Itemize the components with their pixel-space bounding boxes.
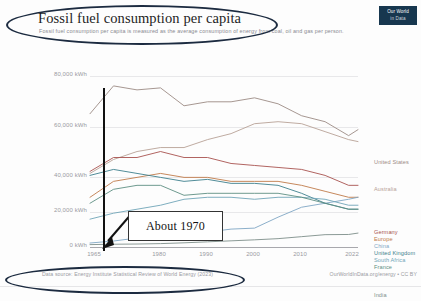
legend-label: China [374, 243, 389, 249]
ink-ellipse-title-highlight [6, 5, 278, 45]
legend-item-europe[interactable]: Europe [374, 236, 393, 242]
legend-item-india[interactable]: India [374, 292, 387, 298]
legend-label: Australia [374, 186, 397, 192]
annotation-callout-box: About 1970 [128, 211, 223, 241]
chart-plot-area: 80,000 kWh 60,000 kWh 40,000 kWh 20,000 … [0, 52, 421, 301]
attribution-note[interactable]: OurWorldInData.org/energy • CC BY [330, 271, 417, 277]
legend-label: India [374, 292, 387, 298]
ink-ellipse-source-highlight [5, 266, 245, 294]
legend-label: United Kingdom [374, 250, 415, 256]
legend-item-united-kingdom[interactable]: United Kingdom [374, 250, 415, 256]
legend-label: South Africa [374, 257, 405, 263]
chart-screenshot: Fossil fuel consumption per capita Fossi… [0, 0, 421, 301]
logo-line-2: in Data [379, 16, 417, 23]
series-line-australia[interactable] [90, 122, 358, 174]
legend-item-australia[interactable]: Australia [374, 186, 397, 192]
series-lines [0, 52, 421, 301]
series-line-united-states[interactable] [90, 86, 358, 136]
legend-label: Germany [374, 229, 398, 235]
legend-label: United States [374, 159, 409, 165]
logo-line-1: Our World [379, 9, 417, 16]
legend-item-germany[interactable]: Germany [374, 229, 398, 235]
legend-item-china[interactable]: China [374, 243, 389, 249]
annotation-callout-label: About 1970 [146, 219, 205, 234]
legend-item-united-states[interactable]: United States [374, 159, 409, 165]
legend-label: Europe [374, 236, 393, 242]
legend-item-south-africa[interactable]: South Africa [374, 257, 405, 263]
our-world-in-data-logo[interactable]: Our World in Data [379, 6, 417, 25]
